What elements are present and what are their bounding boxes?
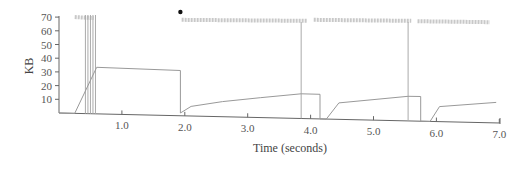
y-tick-label: 60 (41, 25, 53, 37)
y-axis-title: KB (22, 58, 36, 75)
x-tick-label: 4.0 (304, 124, 318, 136)
y-tick-label: 20 (41, 80, 53, 92)
cwnd-line (59, 67, 496, 121)
y-tick-label: 10 (41, 93, 53, 105)
x-tick-label: 2.0 (178, 121, 192, 133)
x-axis-title: Time (seconds) (253, 141, 327, 155)
y-tick-label: 30 (41, 66, 53, 78)
y-tick-label: 50 (41, 39, 53, 51)
chart: 10203040506070 1.02.03.04.05.06.07.0 KB … (0, 0, 521, 171)
timeout-lines (85, 15, 408, 121)
y-axis: 10203040506070 (41, 11, 59, 113)
y-tick-label: 40 (41, 52, 53, 64)
y-tick-label: 70 (41, 11, 53, 23)
x-tick-label: 7.0 (492, 128, 506, 140)
x-axis: 1.02.03.04.05.06.07.0 (59, 110, 507, 140)
marker-dot (178, 10, 182, 14)
x-tick-label: 1.0 (115, 119, 129, 131)
x-tick-label: 3.0 (241, 122, 255, 134)
x-tick-label: 6.0 (430, 127, 444, 139)
x-tick-label: 5.0 (367, 125, 381, 137)
packet-marks (75, 17, 490, 22)
